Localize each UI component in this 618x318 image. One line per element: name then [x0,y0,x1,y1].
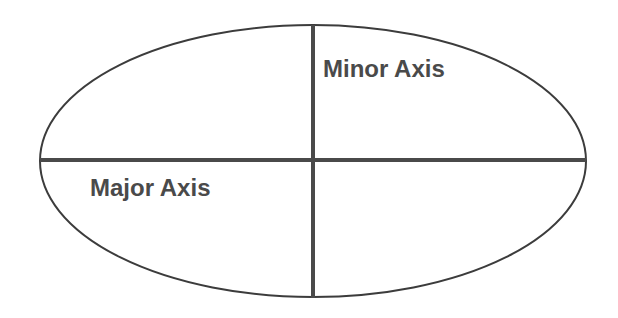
ellipse-figure [0,0,618,318]
major-axis-label: Major Axis [90,176,210,200]
ellipse-diagram: Minor Axis Major Axis [0,0,618,318]
minor-axis-label: Minor Axis [323,57,445,81]
